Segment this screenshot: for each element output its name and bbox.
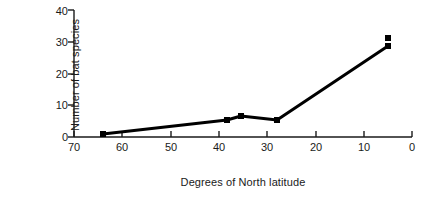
data-point-marker [385, 35, 391, 41]
data-point-marker [274, 117, 280, 123]
data-point-marker [238, 113, 244, 119]
data-point-marker [224, 117, 230, 123]
data-markers-series-0 [100, 43, 391, 137]
x-axis-title: Degrees of North latitude [74, 176, 412, 188]
data-line-series-0 [103, 46, 388, 134]
data-point-marker [385, 43, 391, 49]
data-markers-series-1 [385, 35, 391, 41]
data-point-marker [100, 131, 106, 137]
y-tick-marks [68, 10, 74, 137]
bat-species-latitude-chart: Number of bat species 40 30 20 10 0 70 6… [0, 0, 437, 206]
